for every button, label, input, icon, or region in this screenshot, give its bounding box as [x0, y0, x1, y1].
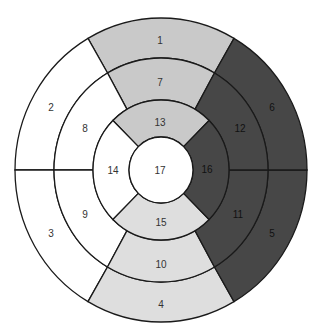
segment-label-17: 17 [154, 165, 166, 176]
segment-label-6: 6 [269, 102, 275, 113]
segment-label-11: 11 [233, 209, 244, 220]
segment-label-13: 13 [154, 117, 166, 128]
segment-label-15: 15 [155, 217, 167, 228]
segment-label-5: 5 [269, 228, 275, 239]
segment-label-14: 14 [107, 165, 119, 176]
segment-label-16: 16 [201, 164, 213, 175]
segment-label-8: 8 [82, 123, 88, 134]
segment-label-10: 10 [155, 259, 167, 270]
segment-label-9: 9 [82, 209, 88, 220]
segment-label-2: 2 [48, 102, 54, 113]
segment-label-4: 4 [158, 299, 164, 310]
segment-label-12: 12 [234, 123, 246, 134]
bullseye-diagram: 1234567891011121314151617 [0, 0, 325, 336]
segment-label-7: 7 [157, 77, 163, 88]
segment-label-1: 1 [157, 35, 163, 46]
segment-label-3: 3 [48, 228, 54, 239]
